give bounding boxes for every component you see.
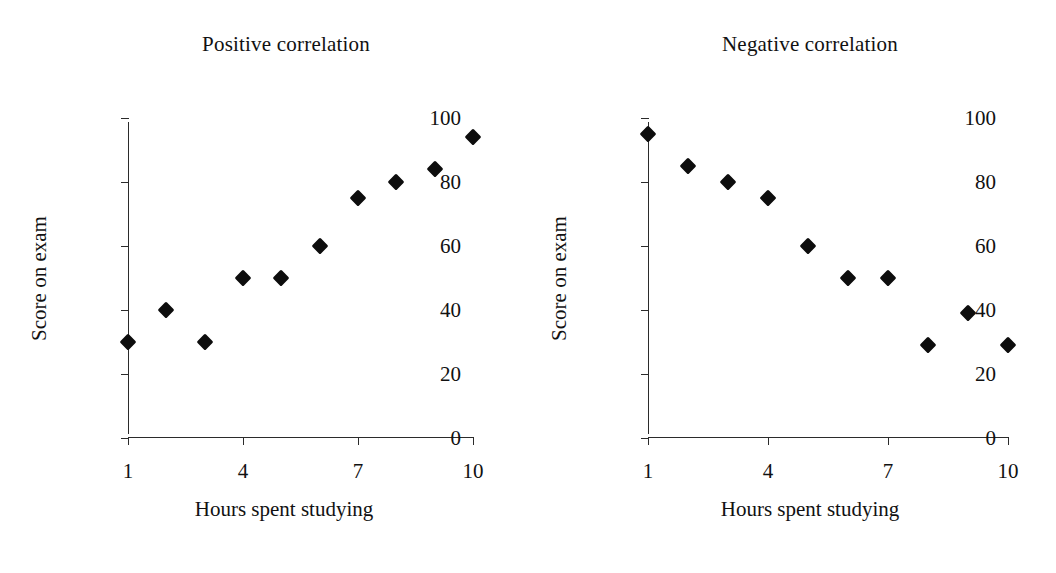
data-point-marker: [640, 126, 657, 143]
y-axis-line: [648, 122, 649, 434]
data-point-marker: [1000, 337, 1017, 354]
data-point-marker: [920, 337, 937, 354]
data-point-marker: [880, 270, 897, 287]
y-axis-tick: [121, 182, 129, 183]
y-axis-tick: [641, 246, 649, 247]
x-axis-label-negative: Hours spent studying: [546, 497, 1056, 522]
x-axis-tick: [1008, 437, 1009, 445]
x-axis-line: [648, 437, 1008, 438]
data-point-marker: [388, 174, 405, 191]
data-point-marker: [760, 190, 777, 207]
y-axis-label-positive: Score on exam: [26, 118, 52, 438]
y-axis-tick-label: 100: [965, 108, 997, 129]
x-axis-tick: [768, 437, 769, 445]
data-point-marker: [960, 305, 977, 322]
y-axis-tick-label: 100: [430, 108, 462, 129]
data-point-marker: [840, 270, 857, 287]
y-axis-tick: [641, 374, 649, 375]
y-axis-tick-label: 20: [440, 364, 461, 385]
chart-panel-positive-correlation: Positive correlation Score on exam 02040…: [0, 0, 528, 573]
correlation-figure: Positive correlation Score on exam 02040…: [0, 0, 1056, 573]
x-axis-tick: [128, 437, 129, 445]
y-axis-tick-label: 80: [975, 172, 996, 193]
plot-area-negative: 02040608010014710: [648, 118, 1008, 438]
x-axis-tick-label: 10: [463, 461, 484, 482]
data-point-marker: [720, 174, 737, 191]
x-axis-line: [128, 437, 473, 438]
y-axis-label-text: Score on exam: [547, 216, 572, 341]
x-axis-label-positive: Hours spent studying: [20, 497, 548, 522]
y-axis-tick: [641, 182, 649, 183]
y-axis-tick: [641, 118, 649, 119]
y-axis-tick-label: 0: [986, 428, 997, 449]
x-axis-tick-label: 1: [643, 461, 654, 482]
chart-panel-negative-correlation: Negative correlation Score on exam 02040…: [528, 0, 1056, 573]
chart-title-positive: Positive correlation: [22, 32, 550, 57]
data-point-marker: [350, 190, 367, 207]
x-axis-tick-label: 4: [763, 461, 774, 482]
data-point-marker: [465, 129, 482, 146]
y-axis-tick: [121, 246, 129, 247]
data-point-marker: [273, 270, 290, 287]
y-axis-tick-label: 80: [440, 172, 461, 193]
y-axis-tick-label: 60: [440, 236, 461, 257]
y-axis-line: [128, 122, 129, 434]
y-axis-tick-label: 40: [440, 300, 461, 321]
x-axis-tick: [888, 437, 889, 445]
data-point-marker: [196, 334, 213, 351]
x-axis-tick-label: 10: [998, 461, 1019, 482]
x-axis-tick: [648, 437, 649, 445]
data-point-marker: [311, 238, 328, 255]
chart-title-negative: Negative correlation: [546, 32, 1056, 57]
y-axis-tick: [121, 310, 129, 311]
data-point-marker: [158, 302, 175, 319]
data-point-marker: [800, 238, 817, 255]
x-axis-tick-label: 1: [123, 461, 134, 482]
y-axis-tick-label: 0: [451, 428, 462, 449]
y-axis-tick: [121, 118, 129, 119]
x-axis-tick-label: 4: [238, 461, 249, 482]
x-axis-tick: [358, 437, 359, 445]
x-axis-tick: [473, 437, 474, 445]
y-axis-label-text: Score on exam: [27, 216, 52, 341]
plot-area-positive: 02040608010014710: [128, 118, 473, 438]
y-axis-tick-label: 40: [975, 300, 996, 321]
data-point-marker: [120, 334, 137, 351]
y-axis-tick: [121, 374, 129, 375]
x-axis-tick-label: 7: [883, 461, 894, 482]
data-point-marker: [680, 158, 697, 175]
y-axis-tick: [641, 310, 649, 311]
x-axis-tick: [243, 437, 244, 445]
data-point-marker: [235, 270, 252, 287]
y-axis-tick-label: 20: [975, 364, 996, 385]
y-axis-tick-label: 60: [975, 236, 996, 257]
x-axis-tick-label: 7: [353, 461, 364, 482]
y-axis-label-negative: Score on exam: [546, 118, 572, 438]
